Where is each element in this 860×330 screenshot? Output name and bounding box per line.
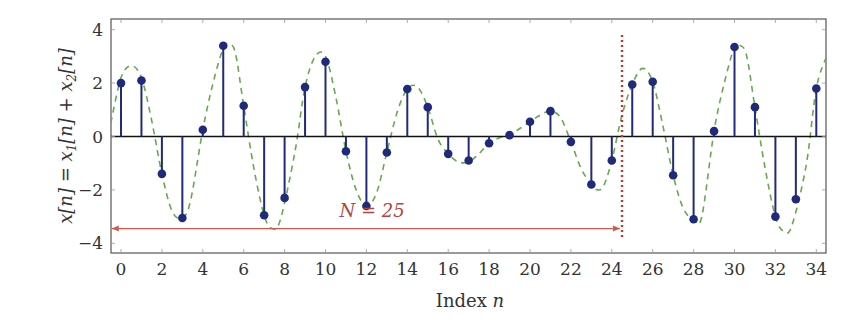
- y-tick-label: −2: [78, 180, 103, 200]
- stem-sample: [505, 131, 514, 140]
- x-tick-label: 26: [642, 259, 664, 279]
- ylabel-sub-1: 1: [65, 144, 79, 152]
- stem-sample: [567, 137, 576, 147]
- ylabel-part-2: [n] + x: [55, 81, 76, 143]
- stem-sample: [546, 107, 555, 137]
- stem-sample: [321, 57, 330, 136]
- x-tick-label: 8: [279, 259, 290, 279]
- ylabel-part-0: x[n] = x: [55, 151, 76, 223]
- stem-sample: [710, 127, 719, 137]
- y-axis-label: x[n] = x1[n] + x2[n]: [55, 47, 79, 224]
- stem-sample: [137, 76, 146, 136]
- stem-sample: [526, 118, 535, 137]
- y-tick-label: 4: [92, 20, 103, 40]
- y-tick-label: −4: [78, 233, 103, 253]
- x-tick-label: 34: [805, 259, 827, 279]
- y-tick-label: 0: [92, 127, 103, 147]
- stem-sample: [771, 137, 780, 221]
- stem-chart: 0246810121416182022242628303234−4−2024 N…: [0, 0, 860, 330]
- x-axis-label-var: n: [493, 290, 505, 311]
- period-label: N = 25: [338, 200, 404, 221]
- x-axis-label-text: Index: [436, 290, 493, 311]
- x-tick-label: 14: [396, 259, 418, 279]
- ylabel-part-4: [n]: [55, 47, 76, 74]
- x-tick-label: 0: [116, 259, 127, 279]
- x-tick-label: 10: [315, 259, 337, 279]
- stem-sample: [485, 137, 494, 148]
- arrowhead-left-icon: [112, 226, 119, 232]
- y-tick-label: 2: [92, 73, 103, 93]
- stem-sample: [751, 103, 760, 137]
- x-tick-label: 30: [724, 259, 746, 279]
- stem-sample: [383, 137, 392, 157]
- x-axis-label: Index n: [436, 290, 504, 311]
- stem-sample: [444, 137, 453, 159]
- stem-sample: [260, 137, 269, 220]
- stem-sample: [628, 80, 637, 136]
- x-tick-label: 28: [683, 259, 705, 279]
- x-tick-label: 16: [437, 259, 459, 279]
- ylabel-sub-2: 2: [65, 74, 79, 83]
- x-tick-label: 20: [519, 259, 541, 279]
- stem-sample: [423, 103, 432, 137]
- x-tick-label: 12: [356, 259, 378, 279]
- stem-sample: [342, 137, 351, 156]
- stem-sample: [587, 137, 596, 189]
- stem-sample: [464, 137, 473, 165]
- x-tick-label: 2: [156, 259, 167, 279]
- stem-sample: [199, 126, 208, 137]
- x-tick-label: 22: [560, 259, 582, 279]
- x-tick-label: 24: [601, 259, 623, 279]
- stem-sample: [689, 137, 698, 224]
- stem-sample: [239, 101, 248, 136]
- arrowhead-right-icon: [613, 226, 620, 232]
- x-tick-label: 32: [765, 259, 787, 279]
- stem-sample: [158, 137, 167, 179]
- x-tick-label: 4: [197, 259, 208, 279]
- stem-sample: [648, 77, 657, 136]
- stem-sample: [792, 137, 801, 204]
- x-tick-label: 18: [478, 259, 500, 279]
- axis-ticks: 0246810121416182022242628303234−4−2024: [78, 19, 827, 279]
- x-tick-label: 6: [238, 259, 249, 279]
- stem-sample: [301, 83, 310, 137]
- stem-sample: [178, 137, 187, 223]
- stem-series: [117, 41, 821, 223]
